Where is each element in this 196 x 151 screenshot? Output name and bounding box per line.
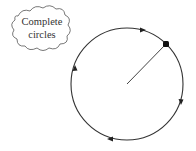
cloud-label: Complete circles [18,15,66,41]
moving-point [163,41,169,47]
cloud-line-1: Complete [18,15,66,28]
arrow-top-icon [140,28,146,33]
radius-line [127,44,166,84]
cloud-line-2: circles [18,28,66,41]
